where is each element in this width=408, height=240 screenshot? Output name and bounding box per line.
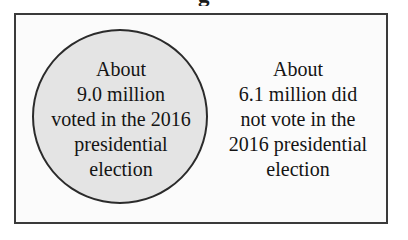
diagram-frame: About 9.0 million voted in the 2016 pres…	[14, 13, 388, 224]
venn-diagram-figure: g About 9.0 million voted in the 2016 pr…	[0, 0, 408, 240]
not-voted-label-line-5: election	[208, 157, 388, 182]
not-voted-label-line-3: not vote in the	[208, 107, 388, 132]
voted-group-label: About 9.0 million voted in the 2016 pres…	[28, 57, 214, 182]
not-voted-label-line-4: 2016 presidential	[208, 132, 388, 157]
voted-label-line-4: presidential	[28, 132, 214, 157]
not-voted-group-label: About 6.1 million did not vote in the 20…	[208, 57, 388, 182]
clipped-heading-text: g	[0, 0, 408, 6]
voted-label-line-2: 9.0 million	[28, 82, 214, 107]
voted-label-line-5: election	[28, 157, 214, 182]
voted-label-line-1: About	[28, 57, 214, 82]
voted-label-line-3: voted in the 2016	[28, 107, 214, 132]
not-voted-label-line-2: 6.1 million did	[208, 82, 388, 107]
not-voted-label-line-1: About	[208, 57, 388, 82]
